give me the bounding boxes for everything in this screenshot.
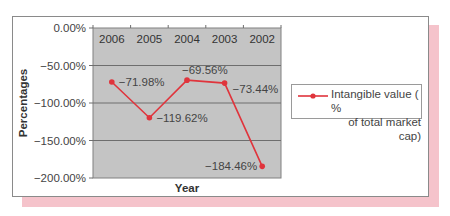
data-point [222, 80, 228, 86]
legend-line-marker-icon [298, 91, 328, 101]
x-tick-label: 2002 [249, 33, 275, 45]
data-label: −69.56% [182, 64, 228, 76]
y-axis-ticks: 0.00%−50.00%−100.00%−150.00%−200.00% [34, 22, 93, 184]
y-tick-label: −200.00% [34, 172, 86, 184]
y-tick-label: 0.00% [53, 22, 86, 34]
data-point [259, 164, 265, 170]
x-tick-label: 2005 [137, 33, 163, 45]
x-tick-label: 2004 [174, 33, 200, 45]
data-label: −73.44% [233, 83, 279, 95]
y-axis-title: Percentages [17, 69, 29, 137]
data-point [147, 115, 153, 121]
y-tick-label: −150.00% [34, 135, 86, 147]
y-tick-label: −50.00% [40, 60, 86, 72]
legend: Intangible value ( % of total market cap… [291, 84, 422, 119]
legend-label-line1: Intangible value ( % [331, 87, 421, 115]
legend-label-line2: of total market cap) [331, 115, 421, 143]
x-tick-label: 2006 [99, 33, 125, 45]
y-tick-label: −100.00% [34, 97, 86, 109]
data-label: −71.98% [119, 76, 165, 88]
legend-label: Intangible value ( % of total market cap… [331, 87, 421, 143]
data-point [184, 77, 190, 83]
x-axis-title: Year [175, 182, 200, 194]
data-label: −119.62% [156, 112, 207, 124]
x-tick-label: 2003 [212, 33, 238, 45]
data-label: −184.46% [205, 160, 257, 172]
data-point [109, 79, 115, 85]
